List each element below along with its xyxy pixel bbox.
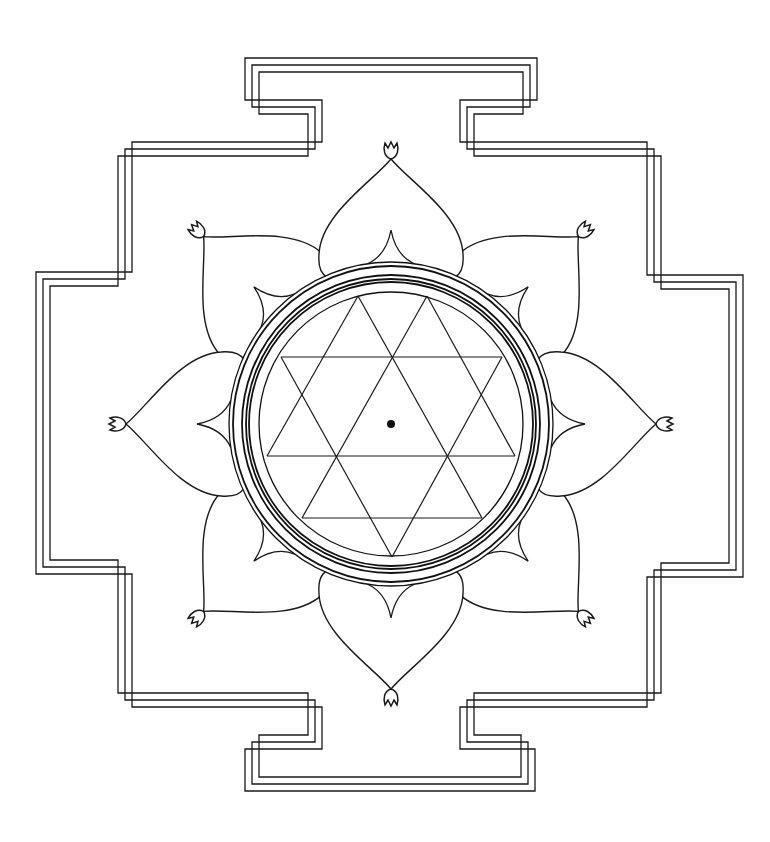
lotus-petal (319, 571, 463, 706)
central-bindu (387, 420, 395, 428)
petal-outline (538, 352, 656, 496)
lotus-petal (538, 352, 673, 496)
yantra-drawing (0, 0, 770, 842)
petal-outline (319, 159, 463, 277)
petal-outline (126, 352, 244, 496)
petal-outline (319, 571, 463, 689)
lotus-petal (109, 352, 244, 496)
bindu-dot (387, 420, 395, 428)
yantra-canvas: Yantra line drawing (0, 0, 770, 842)
lotus-bud-icon (384, 142, 398, 159)
lotus-bud-icon (109, 417, 126, 431)
lotus-petal (319, 142, 463, 277)
lotus-bud-icon (384, 689, 398, 706)
lotus-bud-icon (656, 417, 673, 431)
